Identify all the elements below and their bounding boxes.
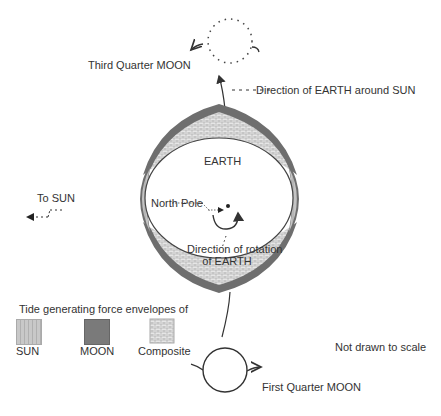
rotation-direction-line1: Direction of rotation (187, 243, 267, 255)
third-quarter-moon-label: Third Quarter MOON (88, 59, 191, 71)
not-to-scale-label: Not drawn to scale (335, 341, 426, 353)
rotation-direction-line2: of EARTH (187, 255, 267, 267)
legend-label-sun: SUN (16, 345, 39, 357)
legend-swatch-composite (149, 318, 175, 344)
earth-label: EARTH (204, 155, 241, 167)
legend-label-composite: Composite (138, 345, 191, 357)
to-sun-arrow (26, 210, 64, 221)
to-sun-label: To SUN (37, 192, 75, 204)
orbit-arrow-up (219, 76, 225, 109)
tide-diagram-graphic (0, 0, 441, 416)
direction-earth-around-sun-label: Direction of EARTH around SUN (256, 84, 415, 96)
rotation-direction-label: Direction of rotation of EARTH (187, 243, 267, 267)
legend-swatch-moon (84, 319, 110, 345)
orbit-line-lower (222, 292, 230, 337)
first-quarter-moon-label: First Quarter MOON (262, 381, 361, 393)
legend-label-moon: MOON (80, 345, 114, 357)
north-pole-label: North Pole (151, 197, 203, 209)
first-quarter-moon-icon (191, 348, 261, 392)
legend-swatch-sun (16, 319, 42, 345)
legend-title: Tide generating force envelopes of (19, 303, 188, 315)
third-quarter-moon-icon (191, 19, 259, 63)
